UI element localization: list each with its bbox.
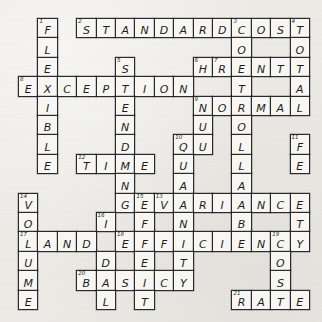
crossword-cell-r4-c5[interactable]: E — [115, 96, 135, 116]
crossword-cell-r6-c11[interactable]: L — [231, 134, 251, 154]
crossword-cell-r4-c13[interactable]: A — [270, 96, 290, 116]
crossword-cell-r0-c3[interactable]: 2S — [76, 18, 96, 38]
crossword-grid[interactable]: 1F2STANDARD3COS4TLOOE5S6H7RENTT8EXCEPTIO… — [0, 0, 322, 322]
crossword-cell-r9-c11[interactable]: A — [231, 193, 251, 213]
crossword-cell-r6-c8[interactable]: 10Q — [173, 134, 193, 154]
crossword-cell-r14-c6[interactable]: T — [134, 290, 154, 310]
crossword-cell-r9-c14[interactable]: E — [290, 193, 310, 213]
crossword-cell-r11-c13[interactable]: 19C — [270, 231, 290, 251]
crossword-cell-r3-c2[interactable]: C — [57, 76, 77, 96]
crossword-cell-r0-c13[interactable]: S — [270, 18, 290, 38]
crossword-cell-r0-c1[interactable]: 1F — [37, 18, 57, 38]
crossword-cell-r12-c13[interactable]: O — [270, 251, 290, 271]
crossword-cell-r1-c14[interactable]: O — [290, 37, 310, 57]
crossword-cell-r7-c4[interactable]: I — [96, 154, 116, 174]
crossword-cell-r3-c1[interactable]: X — [37, 76, 57, 96]
crossword-cell-r7-c8[interactable]: U — [173, 154, 193, 174]
crossword-cell-r7-c11[interactable]: L — [231, 154, 251, 174]
crossword-cell-r0-c7[interactable]: D — [154, 18, 174, 38]
crossword-cell-r3-c14[interactable]: A — [290, 76, 310, 96]
crossword-cell-r9-c10[interactable]: I — [212, 193, 232, 213]
crossword-cell-r10-c14[interactable]: T — [290, 212, 310, 232]
crossword-cell-r7-c14[interactable]: E — [290, 154, 310, 174]
crossword-cell-r13-c13[interactable]: S — [270, 270, 290, 290]
crossword-cell-r11-c2[interactable]: N — [57, 231, 77, 251]
crossword-cell-r3-c11[interactable]: T — [231, 76, 251, 96]
crossword-cell-r6-c14[interactable]: 11F — [290, 134, 310, 154]
crossword-cell-r8-c11[interactable]: A — [231, 173, 251, 193]
crossword-cell-r13-c6[interactable]: I — [134, 270, 154, 290]
crossword-cell-r4-c1[interactable]: I — [37, 96, 57, 116]
crossword-cell-r0-c12[interactable]: O — [251, 18, 271, 38]
crossword-cell-r0-c8[interactable]: A — [173, 18, 193, 38]
crossword-cell-r11-c0[interactable]: 17L — [18, 231, 38, 251]
crossword-cell-r5-c11[interactable]: O — [231, 115, 251, 135]
crossword-cell-r0-c4[interactable]: T — [96, 18, 116, 38]
crossword-cell-r13-c0[interactable]: M — [18, 270, 38, 290]
crossword-cell-r3-c5[interactable]: T — [115, 76, 135, 96]
crossword-cell-r0-c6[interactable]: N — [134, 18, 154, 38]
crossword-cell-r6-c1[interactable]: L — [37, 134, 57, 154]
crossword-cell-r11-c5[interactable]: 18E — [115, 231, 135, 251]
crossword-cell-r11-c8[interactable]: I — [173, 231, 193, 251]
crossword-cell-r13-c5[interactable]: S — [115, 270, 135, 290]
crossword-cell-r4-c11[interactable]: R — [231, 96, 251, 116]
crossword-cell-r2-c9[interactable]: 6H — [193, 57, 213, 77]
crossword-cell-r12-c4[interactable]: D — [96, 251, 116, 271]
crossword-cell-r4-c10[interactable]: O — [212, 96, 232, 116]
crossword-cell-r2-c11[interactable]: E — [231, 57, 251, 77]
crossword-cell-r3-c8[interactable]: N — [173, 76, 193, 96]
crossword-cell-r13-c4[interactable]: A — [96, 270, 116, 290]
crossword-cell-r14-c4[interactable]: L — [96, 290, 116, 310]
crossword-cell-r11-c3[interactable]: D — [76, 231, 96, 251]
crossword-cell-r10-c6[interactable]: F — [134, 212, 154, 232]
crossword-cell-r11-c9[interactable]: C — [193, 231, 213, 251]
crossword-cell-r7-c6[interactable]: E — [134, 154, 154, 174]
crossword-cell-r3-c6[interactable]: I — [134, 76, 154, 96]
crossword-cell-r10-c8[interactable]: N — [173, 212, 193, 232]
crossword-cell-r4-c12[interactable]: M — [251, 96, 271, 116]
crossword-cell-r11-c1[interactable]: A — [37, 231, 57, 251]
crossword-cell-r2-c10[interactable]: 7R — [212, 57, 232, 77]
crossword-cell-r10-c4[interactable]: 16I — [96, 212, 116, 232]
crossword-cell-r6-c9[interactable]: U — [193, 134, 213, 154]
crossword-cell-r7-c3[interactable]: 12T — [76, 154, 96, 174]
crossword-cell-r2-c5[interactable]: 5S — [115, 57, 135, 77]
crossword-cell-r14-c11[interactable]: 21R — [231, 290, 251, 310]
crossword-cell-r5-c5[interactable]: N — [115, 115, 135, 135]
crossword-cell-r4-c14[interactable]: L — [290, 96, 310, 116]
crossword-cell-r9-c5[interactable]: G — [115, 193, 135, 213]
crossword-cell-r3-c3[interactable]: E — [76, 76, 96, 96]
crossword-cell-r9-c6[interactable]: 15E — [134, 193, 154, 213]
crossword-cell-r7-c5[interactable]: M — [115, 154, 135, 174]
crossword-cell-r0-c5[interactable]: A — [115, 18, 135, 38]
crossword-cell-r11-c14[interactable]: Y — [290, 231, 310, 251]
crossword-cell-r11-c11[interactable]: E — [231, 231, 251, 251]
crossword-cell-r2-c14[interactable]: T — [290, 57, 310, 77]
crossword-cell-r2-c1[interactable]: E — [37, 57, 57, 77]
crossword-cell-r3-c4[interactable]: P — [96, 76, 116, 96]
crossword-cell-r9-c12[interactable]: N — [251, 193, 271, 213]
crossword-cell-r14-c14[interactable]: E — [290, 290, 310, 310]
crossword-cell-r2-c12[interactable]: N — [251, 57, 271, 77]
crossword-cell-r12-c8[interactable]: T — [173, 251, 193, 271]
crossword-cell-r14-c0[interactable]: E — [18, 290, 38, 310]
crossword-cell-r8-c5[interactable]: N — [115, 173, 135, 193]
crossword-cell-r7-c1[interactable]: E — [37, 154, 57, 174]
crossword-cell-r10-c0[interactable]: O — [18, 212, 38, 232]
crossword-cell-r4-c9[interactable]: 9N — [193, 96, 213, 116]
crossword-cell-r9-c8[interactable]: A — [173, 193, 193, 213]
crossword-cell-r1-c11[interactable]: O — [231, 37, 251, 57]
crossword-cell-r11-c6[interactable]: F — [134, 231, 154, 251]
crossword-cell-r9-c9[interactable]: R — [193, 193, 213, 213]
crossword-cell-r0-c14[interactable]: 4T — [290, 18, 310, 38]
crossword-cell-r9-c7[interactable]: 13V — [154, 193, 174, 213]
crossword-cell-r6-c5[interactable]: D — [115, 134, 135, 154]
crossword-cell-r14-c12[interactable]: A — [251, 290, 271, 310]
crossword-cell-r9-c0[interactable]: 14V — [18, 193, 38, 213]
crossword-cell-r0-c10[interactable]: D — [212, 18, 232, 38]
crossword-cell-r5-c1[interactable]: B — [37, 115, 57, 135]
crossword-cell-r5-c9[interactable]: U — [193, 115, 213, 135]
crossword-cell-r1-c1[interactable]: L — [37, 37, 57, 57]
crossword-cell-r0-c9[interactable]: R — [193, 18, 213, 38]
